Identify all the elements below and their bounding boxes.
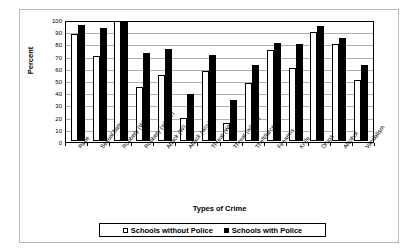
y-tick-label: 0 (59, 140, 62, 146)
bar (296, 44, 303, 141)
bar (187, 94, 194, 141)
chart-container: Percent 0102030405060708090100 RapeSexua… (19, 9, 399, 243)
y-tick-label: 60 (55, 67, 62, 73)
legend-label: Schools without Police (131, 226, 213, 235)
bar (332, 44, 339, 141)
bar-group (89, 23, 111, 141)
y-tick-label: 100 (52, 18, 62, 24)
y-axis-title: Percent (26, 32, 35, 90)
bar (143, 53, 150, 141)
y-tick-label: 40 (55, 91, 62, 97)
bar-group (350, 23, 372, 141)
filled-square-icon (224, 228, 229, 233)
bar-group (285, 23, 307, 141)
plot-area (65, 21, 374, 143)
x-axis-category-labels: RapeSexual batteryRobbery (W)Robbery (w/… (65, 146, 374, 202)
y-tick-label: 50 (55, 79, 62, 85)
chart-legend: Schools without PoliceSchools with Polic… (99, 223, 326, 237)
y-tick-label: 80 (55, 42, 62, 48)
y-tick-label: 90 (55, 30, 62, 36)
hollow-square-icon (123, 228, 128, 233)
bar-group (307, 23, 329, 141)
bar (100, 28, 107, 141)
bar (317, 26, 324, 141)
legend-entry: Schools without Police (123, 226, 213, 235)
bar (230, 100, 237, 141)
bar (310, 32, 317, 141)
bar-group (176, 23, 198, 141)
bar-group (67, 23, 89, 141)
x-axis-title: Types of Crime (65, 204, 374, 213)
bar (78, 25, 85, 141)
bar (361, 65, 368, 141)
bar (71, 34, 78, 141)
y-tick-label: 30 (55, 103, 62, 109)
bar (209, 55, 216, 141)
legend-label: Schools with Police (232, 226, 302, 235)
plot-area-wrapper (65, 21, 374, 143)
bar (93, 56, 100, 141)
y-tick-label: 20 (55, 116, 62, 122)
y-tick-label: 70 (55, 55, 62, 61)
bar (252, 65, 259, 141)
y-axis-tick-labels: 0102030405060708090100 (42, 21, 64, 143)
bar-series-group (67, 23, 372, 141)
bar-group (328, 23, 350, 141)
legend-entry: Schools with Police (224, 226, 302, 235)
bar (339, 38, 346, 141)
y-tick-label: 10 (55, 128, 62, 134)
bar-group (219, 23, 241, 141)
bar (165, 49, 172, 141)
